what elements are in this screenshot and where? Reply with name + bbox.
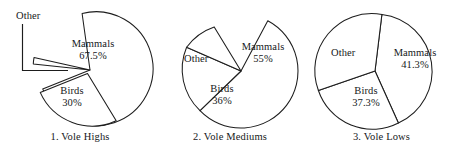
pie-label-birds-value: 37.3% <box>335 97 397 109</box>
pie-label-mammals: Mammals 41.3% <box>378 47 452 71</box>
pie-label-other: Other <box>16 10 40 21</box>
pie-label-birds: Birds 30% <box>43 85 101 109</box>
pie-label-birds: Birds 37.3% <box>335 85 397 109</box>
pie-label-mammals-value: 41.3% <box>378 59 452 71</box>
chart-panel-vole-highs: Other Mammals 67.5% Birds 30% 1. Vole Hi… <box>0 0 160 155</box>
pie-label-birds-name: Birds <box>335 85 397 97</box>
pie-label-mammals: Mammals 67.5% <box>58 38 128 62</box>
pie-label-mammals-name: Mammals <box>228 41 298 53</box>
chart-panel-vole-lows: Other Mammals 41.3% Birds 37.3% 3. Vole … <box>305 0 458 155</box>
pie-label-mammals-name: Mammals <box>58 38 128 50</box>
pie-label-other-text: Other <box>16 10 40 21</box>
chart-panel-vole-mediums: Other Mammals 55% Birds 36% 2. Vole Medi… <box>155 0 305 155</box>
pie-label-birds-value: 36% <box>193 95 251 107</box>
chart-caption-vole-mediums: 2. Vole Mediums <box>155 131 305 142</box>
pie-label-mammals-value: 67.5% <box>58 50 128 62</box>
pie-chart-figure: Other Mammals 67.5% Birds 30% 1. Vole Hi… <box>0 0 458 155</box>
pie-label-birds-value: 30% <box>43 97 101 109</box>
pie-label-other-text: Other <box>184 53 208 64</box>
pie-label-other: Other <box>184 53 208 64</box>
pie-label-mammals-value: 55% <box>228 53 298 65</box>
chart-caption-vole-highs: 1. Vole Highs <box>0 131 160 142</box>
pie-label-birds-name: Birds <box>43 85 101 97</box>
pie-label-mammals: Mammals 55% <box>228 41 298 65</box>
pie-label-birds-name: Birds <box>193 83 251 95</box>
pie-label-mammals-name: Mammals <box>378 47 452 59</box>
chart-caption-vole-lows: 3. Vole Lows <box>305 131 458 142</box>
pie-label-other-text: Other <box>331 47 355 58</box>
pie-label-other: Other <box>331 47 355 58</box>
pie-label-birds: Birds 36% <box>193 83 251 107</box>
